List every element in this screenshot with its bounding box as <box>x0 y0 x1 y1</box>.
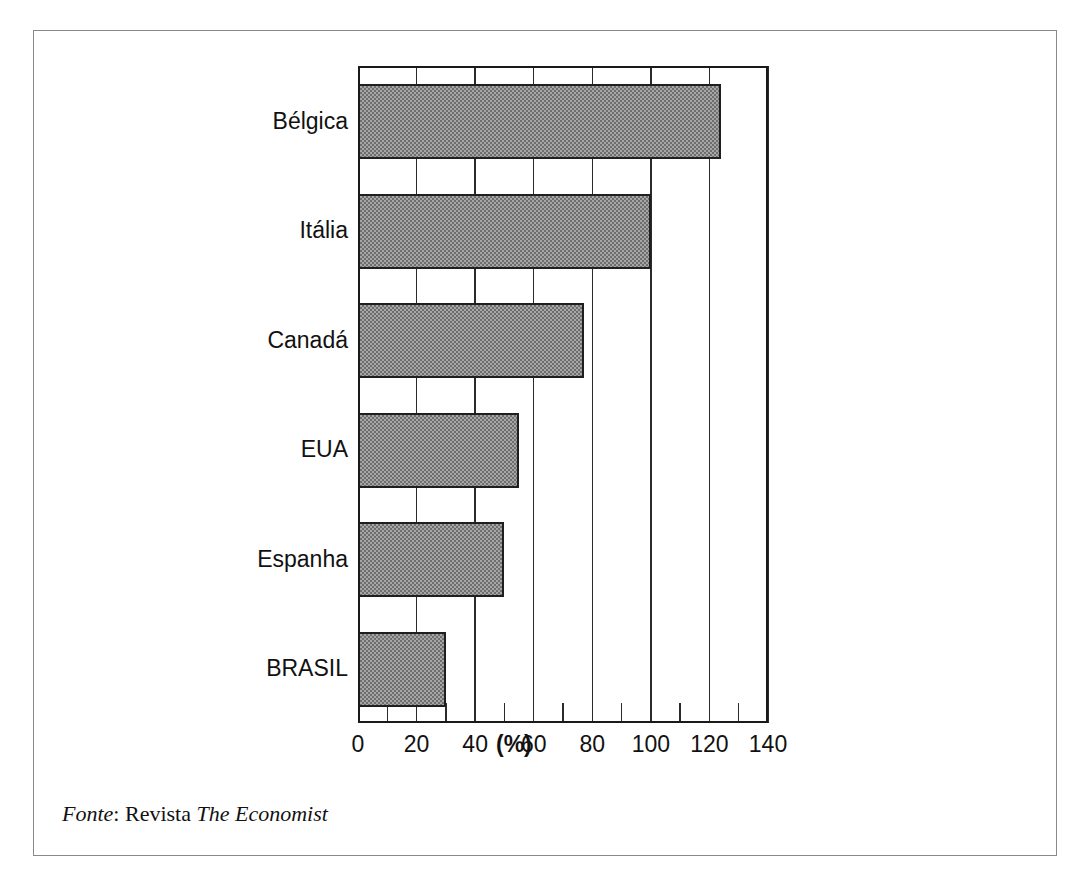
bar-row <box>358 632 768 707</box>
gridline-140 <box>767 66 769 723</box>
gridline-40 <box>474 66 476 723</box>
bar-Espanha[interactable] <box>358 522 504 597</box>
category-axis-labels: BélgicaItáliaCanadáEUAEspanhaBRASIL <box>48 66 348 723</box>
xtick-label-140: 140 <box>738 733 798 756</box>
category-label-Bélgica: Bélgica <box>48 110 348 133</box>
axis-unit-label: (%) <box>496 733 532 756</box>
bar-Canadá[interactable] <box>358 303 584 378</box>
category-label-EUA: EUA <box>48 438 348 461</box>
gridline-80 <box>592 66 594 723</box>
bar-Itália[interactable] <box>358 194 651 269</box>
bar-BRASIL[interactable] <box>358 632 446 707</box>
category-label-BRASIL: BRASIL <box>48 657 348 680</box>
figure-frame: BélgicaItáliaCanadáEUAEspanhaBRASIL 0204… <box>33 30 1057 856</box>
source-note: Fonte: Revista The Economist <box>62 801 328 827</box>
source-note-prefix: Revista <box>125 801 197 826</box>
category-label-Canadá: Canadá <box>48 329 348 352</box>
bar-row <box>358 84 768 159</box>
source-note-publication: The Economist <box>196 801 327 826</box>
bar-row <box>358 413 768 488</box>
xtick-label-120: 120 <box>679 733 739 756</box>
source-note-separator: : <box>113 801 125 826</box>
bar-row <box>358 522 768 597</box>
xtick-label-20: 20 <box>387 733 447 756</box>
gridline-20 <box>416 66 418 723</box>
gridline-60 <box>533 66 535 723</box>
source-note-label: Fonte <box>62 801 113 826</box>
bar-Bélgica[interactable] <box>358 84 721 159</box>
gridline-120 <box>709 66 711 723</box>
bar-row <box>358 194 768 269</box>
xtick-label-0: 0 <box>328 733 388 756</box>
plot-area <box>358 66 768 723</box>
axis-frame <box>358 66 768 723</box>
xtick-label-80: 80 <box>562 733 622 756</box>
xtick-label-100: 100 <box>621 733 681 756</box>
category-label-Espanha: Espanha <box>48 548 348 571</box>
category-label-Itália: Itália <box>48 219 348 242</box>
value-axis-labels: 020406080100120140 <box>358 733 828 767</box>
bar-EUA[interactable] <box>358 413 519 488</box>
gridline-100 <box>650 66 652 723</box>
bar-row <box>358 303 768 378</box>
